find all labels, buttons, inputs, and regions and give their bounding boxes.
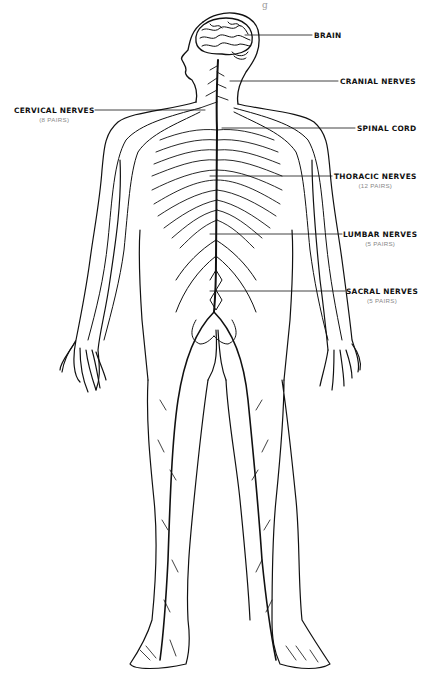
label-brain-title: BRAIN <box>314 31 341 40</box>
label-thoracic-sub: (12 PAIRS) <box>334 182 417 189</box>
label-cranial-nerves: CRANIAL NERVES <box>340 77 416 86</box>
brain <box>196 18 252 59</box>
label-lumbar-sub: (5 PAIRS) <box>343 240 417 247</box>
label-sacral-sub: (5 PAIRS) <box>346 297 418 304</box>
label-cervical-sub: (8 PAIRS) <box>14 116 95 123</box>
cervical-plexus <box>200 66 228 108</box>
lumbar-sacral-nerves <box>160 240 276 660</box>
label-spinal-title: SPINAL CORD <box>357 124 417 133</box>
label-cranial-title: CRANIAL NERVES <box>340 77 416 86</box>
label-spinal-cord: SPINAL CORD <box>357 124 417 133</box>
label-thoracic-title: THORACIC NERVES <box>334 172 417 181</box>
label-lumbar-title: LUMBAR NERVES <box>343 230 417 239</box>
label-sacral-title: SACRAL NERVES <box>346 287 418 296</box>
label-lumbar-nerves: LUMBAR NERVES (5 PAIRS) <box>343 230 417 247</box>
body-outline <box>60 102 361 669</box>
label-cervical-nerves: CERVICAL NERVES (8 PAIRS) <box>14 106 95 123</box>
label-cervical-title: CERVICAL NERVES <box>14 106 95 115</box>
label-brain: BRAIN <box>314 31 341 40</box>
label-thoracic-nerves: THORACIC NERVES (12 PAIRS) <box>334 172 417 189</box>
spinal-cord <box>214 60 218 312</box>
label-sacral-nerves: SACRAL NERVES (5 PAIRS) <box>346 287 418 304</box>
nervous-system-illustration <box>0 0 434 688</box>
leg-nerves <box>140 400 318 662</box>
